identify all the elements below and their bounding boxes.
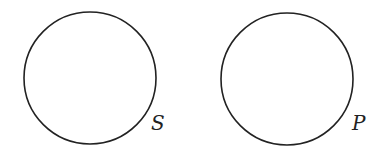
set-p-label: P (351, 111, 366, 135)
diagram-canvas: S P (0, 0, 385, 158)
set-s-circle (24, 12, 156, 144)
set-p-circle (221, 13, 353, 145)
set-s-label: S (151, 111, 165, 135)
